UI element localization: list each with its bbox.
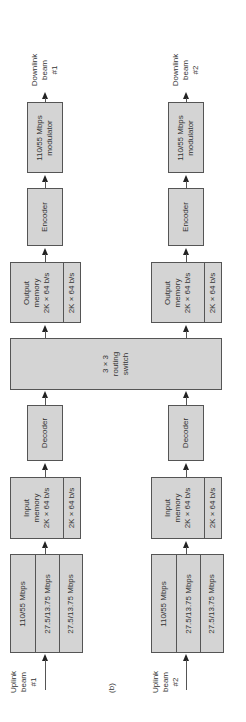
downlink-beam-2-label: Downlinkbeam#2 (163, 44, 209, 96)
connector-line (45, 397, 46, 405)
output-memory-1-main: Outputmemory2K × 64 b/s (11, 263, 63, 322)
connector-line (186, 547, 187, 554)
input-memory-1-block: Inputmemory2K × 64 b/s 2K × 64 b/s (10, 477, 81, 539)
figure-label: (b) (104, 680, 120, 696)
input-memory-2-main: Inputmemory2K × 64 b/s (152, 478, 204, 538)
output-memory-1-block: Outputmemory2K × 64 b/s 2K × 64 b/s (10, 262, 81, 323)
decoder-1-block: Decoder (27, 405, 63, 461)
output-memory-1-side: 2K × 64 b/s (63, 263, 80, 322)
connector-line (186, 397, 187, 405)
encoder-1-block: Encoder (27, 188, 63, 246)
connector-line (186, 469, 187, 477)
output-memory-2-main: Outputmemory2K × 64 b/s (152, 263, 204, 322)
decoder-2-block: Decoder (168, 405, 204, 461)
connector-line (186, 660, 187, 690)
modulator-1-block: 110/55 Mbpsmodulator (27, 102, 63, 173)
downlink-beam-1-label: Downlinkbeam#1 (22, 44, 68, 96)
receiver-2-block: 110/55 Mbps 27.5/13.75 Mbps 27.5/13.75 M… (151, 554, 224, 653)
connector-line (45, 547, 46, 554)
modulator-2-block: 110/55 Mbpsmodulator (168, 102, 204, 173)
input-memory-1-main: Inputmemory2K × 64 b/s (11, 478, 63, 538)
receiver-1-row-1: 110/55 Mbps (11, 555, 35, 652)
receiver-2-row-2: 27.5/13.75 Mbps (176, 555, 200, 652)
connector-line (186, 254, 187, 262)
connector-line (45, 181, 46, 188)
receiver-1-row-2: 27.5/13.75 Mbps (35, 555, 59, 652)
input-memory-2-block: Inputmemory2K × 64 b/s 2K × 64 b/s (151, 477, 222, 539)
connector-line (186, 181, 187, 188)
input-memory-2-side: 2K × 64 b/s (204, 478, 221, 538)
input-memory-1-side: 2K × 64 b/s (63, 478, 80, 538)
output-memory-2-block: Outputmemory2K × 64 b/s 2K × 64 b/s (151, 262, 222, 323)
encoder-2-block: Encoder (168, 188, 204, 246)
routing-switch-block: 3 × 3routingswitch (10, 338, 222, 390)
connector-line (45, 469, 46, 477)
receiver-1-row-3: 27.5/13.75 Mbps (59, 555, 82, 652)
connector-line (45, 331, 46, 338)
receiver-2-row-3: 27.5/13.75 Mbps (200, 555, 223, 652)
receiver-1-block: 110/55 Mbps 27.5/13.75 Mbps 27.5/13.75 M… (10, 554, 83, 653)
uplink-beam-2-label: Uplinkbeam#2 (146, 660, 186, 704)
connector-line (186, 331, 187, 338)
receiver-2-row-1: 110/55 Mbps (152, 555, 176, 652)
connector-line (45, 660, 46, 690)
connector-line (45, 254, 46, 262)
output-memory-2-side: 2K × 64 b/s (204, 263, 221, 322)
uplink-beam-1-label: Uplinkbeam#1 (4, 660, 44, 704)
